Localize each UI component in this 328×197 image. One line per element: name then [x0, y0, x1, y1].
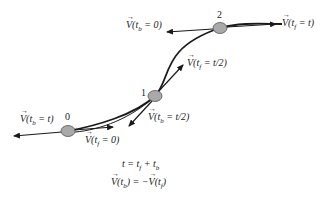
vector-2-forward-label: V(tf = t)	[282, 18, 314, 31]
vector-2-backward	[167, 29, 213, 32]
node-0	[61, 126, 75, 137]
vector-1-forward-label: V(tf = t/2)	[187, 58, 227, 71]
vector-0-backward-label: V(tb = t)	[20, 114, 54, 127]
equation-velocity-reversal: V(tb) = −V(tf)	[111, 177, 166, 190]
node-2-label: 2	[217, 10, 222, 20]
node-2	[213, 23, 227, 34]
vector-0-backward	[14, 132, 62, 136]
vector-0-forward-label: V(tf = 0)	[85, 135, 119, 148]
trajectory-diagram	[0, 0, 328, 197]
node-1	[148, 91, 162, 102]
vector-1-forward	[158, 65, 183, 92]
node-1-label: 1	[141, 88, 146, 98]
vector-1-backward-label: V(tb = t/2)	[148, 112, 189, 125]
vector-2-backward-label: V(tb = 0)	[126, 20, 162, 33]
node-0-label: 0	[65, 112, 70, 122]
